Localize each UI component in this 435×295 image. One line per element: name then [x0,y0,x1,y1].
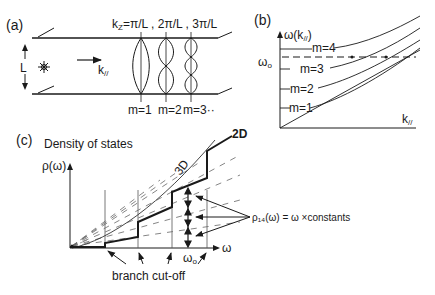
b-y-axis-label: ω(k//) [284,28,312,43]
c-y-axis-label: ρ(ω) [42,159,66,173]
b-x-axis-label: k// [402,112,413,127]
dos-title: Density of states [44,137,133,151]
panel-b-label: (b) [254,12,271,28]
bottom-plate-perspective [38,86,54,93]
wavevector-label: k// [98,63,109,78]
branch-label-m2: m=2 [290,82,314,96]
formula-pointers [196,196,250,236]
omega0-label: ωo [258,55,272,70]
arrow-up-icon [22,44,28,51]
mode-label-2: m=2 [158,103,182,117]
branch-label-m4: m=4 [312,41,336,55]
branch-cutoff-label: branch cut-off [112,269,186,283]
mode-label-3: m=3·· [183,103,215,117]
panel-a: (a) L k// kZ=π/L , 2π/L , 3π/L [6,17,232,117]
kz-label: kZ=π/L , 2π/L , 3π/L [112,17,218,32]
mode-label-1: m=1 [128,103,152,117]
mode-spacing-arrows [185,188,191,247]
top-plate-perspective [38,28,54,37]
panel-b: (b) ω(k//) k// ωo m=1 m=2 m=3 m=4 [254,12,420,128]
branch-label-m3: m=3 [300,62,324,76]
panel-c: (c) Density of states ρ(ω) ω 3D [16,127,350,283]
dos-formula: ρ₁₄(ω) = ω ×constants [252,212,350,223]
arrow-down-icon [22,83,28,90]
panel-c-label: (c) [16,132,32,148]
crossing-point [351,56,354,59]
c-omega0-label: ωo [183,251,197,266]
bottom-plate-right-edge [218,88,232,94]
light-source-icon [38,61,50,73]
branch-label-m1: m=1 [289,101,313,115]
arrow-right-icon [213,245,220,251]
panel-a-label: (a) [6,17,23,33]
branch-m4 [334,16,420,48]
crossing-point [385,56,388,59]
curve-2d-label: 2D [232,127,248,141]
arrow-up-icon [277,31,283,38]
top-plate-right-edge [218,32,232,38]
origin-dot [71,245,74,248]
waveguide-diagram: (a) L k// kZ=π/L , 2π/L , 3π/L [0,0,435,295]
height-label: L [20,61,27,75]
curve-3d-label: 3D [171,157,192,178]
arrow-up-icon [67,163,73,170]
c-x-axis-label: ω [222,241,231,255]
